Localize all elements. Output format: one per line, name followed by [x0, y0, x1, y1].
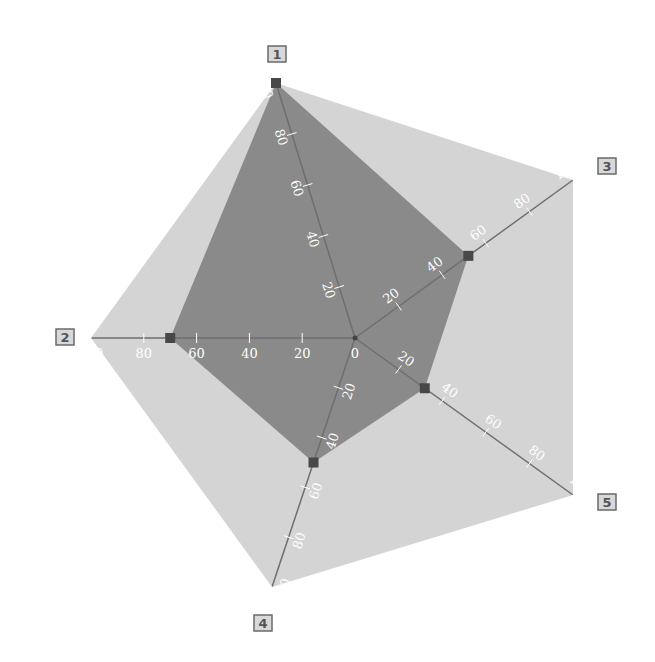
tick-label: 100	[79, 346, 104, 361]
axis-id-box-4: 4	[254, 615, 272, 631]
tick-label: 80	[136, 346, 153, 361]
center-dot	[353, 336, 358, 341]
svg-text:2: 2	[60, 330, 69, 345]
tick-label: 20	[294, 346, 311, 361]
data-point-marker	[271, 78, 281, 88]
data-point-marker	[309, 458, 319, 468]
tick-label: 60	[188, 346, 205, 361]
axis-id-box-1: 1	[268, 46, 286, 62]
radar-chart: 2040608010020406080100204060801002040608…	[0, 0, 655, 662]
svg-text:5: 5	[602, 495, 611, 510]
svg-text:4: 4	[258, 616, 267, 631]
data-point-marker	[420, 383, 430, 393]
svg-text:3: 3	[602, 159, 611, 174]
radar-chart-svg: 2040608010020406080100204060801002040608…	[0, 0, 655, 662]
svg-text:1: 1	[272, 47, 281, 62]
tick-label: 40	[241, 346, 258, 361]
data-point-marker	[463, 251, 473, 261]
axis-id-box-2: 2	[56, 329, 74, 345]
axis-id-box-3: 3	[598, 158, 616, 174]
tick-label: 0	[351, 346, 359, 361]
data-point-marker	[165, 333, 175, 343]
axis-id-box-5: 5	[598, 494, 616, 510]
